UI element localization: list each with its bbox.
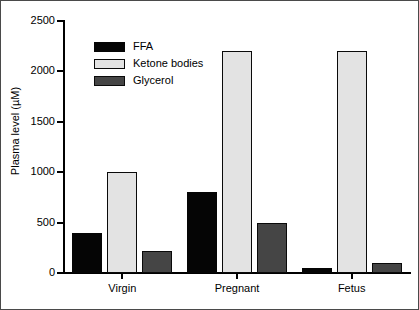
y-tick-label: 0 [1, 267, 55, 278]
legend-swatch-ketone-bodies [94, 59, 125, 69]
x-tick-label-virgin: Virgin [108, 282, 136, 294]
bar-glycerol-virgin [142, 251, 172, 273]
y-tick-label: 2000 [1, 65, 55, 76]
bar-ketone-bodies-pregnant [222, 51, 252, 273]
y-tick-label: 500 [1, 217, 55, 228]
bar-ffa-virgin [72, 233, 102, 273]
chart-legend: FFA Ketone bodies Glycerol [94, 39, 224, 90]
legend-label-glycerol: Glycerol [133, 75, 173, 86]
bar-ketone-bodies-fetus [337, 51, 367, 273]
y-tick-label: 1000 [1, 166, 55, 177]
bar-chart-figure: Plasma level (µM) 05001000150020002500 V… [0, 0, 419, 310]
y-tick-label: 2500 [1, 15, 55, 26]
legend-item-ketone-bodies: Ketone bodies [94, 56, 224, 71]
bar-glycerol-fetus [372, 263, 402, 273]
legend-item-glycerol: Glycerol [94, 73, 224, 88]
x-tick-mark [351, 274, 353, 279]
legend-swatch-glycerol [94, 76, 125, 86]
legend-label-ketone-bodies: Ketone bodies [133, 58, 203, 69]
x-tick-mark [236, 274, 238, 279]
x-tick-mark [121, 274, 123, 279]
y-tick-label: 1500 [1, 116, 55, 127]
x-tick-label-fetus: Fetus [338, 282, 366, 294]
bar-ketone-bodies-virgin [107, 172, 137, 273]
bar-glycerol-pregnant [257, 223, 287, 273]
legend-swatch-ffa [94, 42, 125, 52]
bar-ffa-pregnant [187, 192, 217, 273]
legend-item-ffa: FFA [94, 39, 224, 54]
x-tick-label-pregnant: Pregnant [215, 282, 260, 294]
legend-label-ffa: FFA [133, 41, 153, 52]
bar-ffa-fetus [302, 268, 332, 273]
